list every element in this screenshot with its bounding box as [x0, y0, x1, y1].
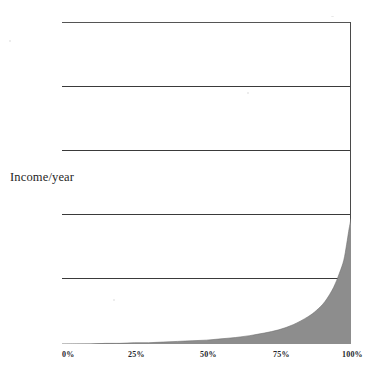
- x-tick-label-4: 100%: [342, 350, 360, 359]
- figure-page: FIGURE 1: GLOBAL INCOME DISTRIBUTION Inc…: [0, 0, 375, 386]
- scan-speck: [247, 92, 249, 94]
- x-tick-label-2: 50%: [200, 350, 217, 359]
- chart-plot-area: [62, 22, 351, 344]
- x-axis-tick-labels: 0%25%50%75%100%: [62, 350, 358, 364]
- scan-speck: [331, 16, 334, 17]
- x-tick-label-1: 25%: [128, 350, 145, 359]
- y-axis-label: Income/year: [10, 170, 62, 185]
- x-tick-label-0: 0%: [62, 350, 74, 359]
- scan-speck: [9, 40, 11, 42]
- x-tick-label-3: 75%: [273, 350, 290, 359]
- scan-speck: [113, 299, 115, 301]
- income-distribution-area-curve: [62, 22, 351, 344]
- figure-title: FIGURE 1: GLOBAL INCOME DISTRIBUTION: [0, 0, 375, 1]
